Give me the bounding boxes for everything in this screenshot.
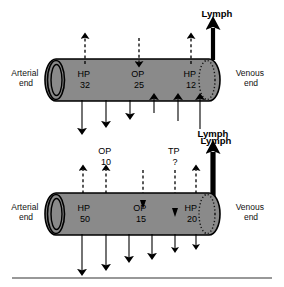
arterial-end-label-top: Arterial end: [11, 68, 40, 88]
venous-end-label-top: Venous end: [236, 68, 267, 88]
outer-label-bottom-op: OP 10: [98, 146, 113, 167]
capillary-exchange-diagram: Arterial end Venous end HP 32 OP 25 HP 1…: [0, 0, 284, 287]
lymph-label-top: Lymph: [202, 8, 233, 19]
diagram-top: Arterial end Venous end HP 32 OP 25 HP 1…: [11, 8, 266, 139]
lymph-label-bottom: Lymph: [201, 135, 232, 146]
arterial-end-label-bottom: Arterial end: [11, 202, 40, 222]
figure-canvas: Arterial end Venous end HP 32 OP 25 HP 1…: [0, 0, 284, 287]
venous-end-label-bottom: Venous end: [236, 202, 267, 222]
diagram-bottom: OP 10 TP ? Lymph Arterial end: [11, 135, 266, 270]
vessel-left-cap-inner-top: [51, 65, 62, 96]
vessel-left-cap-inner-bottom: [51, 199, 62, 230]
outer-label-bottom-tp: TP ?: [168, 146, 182, 167]
